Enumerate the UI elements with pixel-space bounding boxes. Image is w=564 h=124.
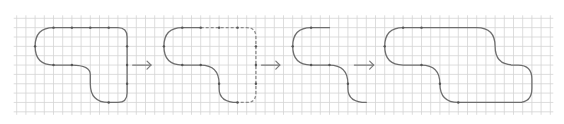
path-node xyxy=(181,26,183,28)
path-node xyxy=(310,26,312,28)
arrow-2 xyxy=(261,61,279,69)
path-node xyxy=(292,45,294,47)
path-node xyxy=(108,101,110,103)
path-node xyxy=(52,64,54,66)
path-node xyxy=(255,83,257,85)
path-node xyxy=(34,45,36,47)
path-node xyxy=(52,26,54,28)
path-node xyxy=(255,64,257,66)
path-node xyxy=(126,64,128,66)
path-node xyxy=(89,26,91,28)
path-node xyxy=(218,26,220,28)
path-node xyxy=(236,101,238,103)
path-node xyxy=(181,64,183,66)
path-node xyxy=(163,45,165,47)
grid xyxy=(14,15,554,115)
path-node xyxy=(384,45,386,47)
path-node xyxy=(108,26,110,28)
path-node xyxy=(420,64,422,66)
path-node xyxy=(347,83,349,85)
path-node xyxy=(439,83,441,85)
graph-paper-diagram xyxy=(0,0,564,124)
path-node xyxy=(236,26,238,28)
path-node xyxy=(126,83,128,85)
path-node xyxy=(200,26,202,28)
stage-3 xyxy=(292,26,367,102)
path-node xyxy=(420,26,422,28)
path-node xyxy=(126,45,128,47)
path-node xyxy=(71,64,73,66)
path-node xyxy=(218,83,220,85)
path-node xyxy=(328,64,330,66)
path-node xyxy=(200,64,202,66)
path-node xyxy=(457,101,459,103)
arrow-1 xyxy=(133,61,151,69)
path-node xyxy=(402,26,404,28)
path-node xyxy=(255,45,257,47)
path-node xyxy=(310,64,312,66)
path-node xyxy=(71,26,73,28)
